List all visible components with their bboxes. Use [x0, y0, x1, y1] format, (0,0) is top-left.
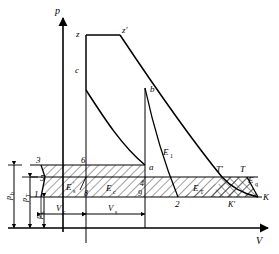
area-label-ET-base: E [192, 183, 199, 193]
dim-label-Vs: V s [108, 203, 117, 215]
point-label-4: 4 [140, 179, 144, 188]
dim-label-Vs-sub: s [115, 209, 117, 215]
point-label-2: 2 [175, 199, 180, 209]
dim-label-Vs-base: V [108, 203, 115, 213]
axis-label-V: V [256, 235, 264, 246]
area-label-Ec-base: E [105, 183, 112, 193]
point-label-c: c [75, 65, 79, 75]
dim-label-pT: p T [20, 193, 31, 203]
dim-label-pk-sub: k [39, 211, 45, 214]
area-label-Eq-sub: q [255, 181, 258, 187]
area-label-Eq-base: E [247, 175, 254, 185]
point-label-z-prime: z′ [121, 25, 129, 35]
point-label-T-prime: T′ [216, 164, 224, 174]
point-label-1: 1 [34, 189, 39, 199]
curve-compression [86, 90, 145, 165]
area-label-Es-base: E [65, 182, 72, 192]
point-label-3: 3 [35, 155, 41, 165]
pv-diagram-svg: p V z z′ c b a T′ T K K′ 1 2 3 4 5 6 8 9… [0, 0, 279, 254]
dim-label-pb-sub: b [9, 192, 15, 195]
point-label-6: 6 [81, 155, 86, 165]
area-label-ET-sub: T [200, 189, 204, 195]
point-label-5: 5 [40, 173, 45, 183]
point-label-8: 8 [84, 189, 88, 198]
axis-label-p: p [54, 5, 60, 16]
dim-label-pb-base: p [4, 196, 13, 201]
dim-label-pT-base: p [20, 198, 29, 203]
area-fill-top-strip [41, 165, 145, 177]
point-label-K-prime: K′ [227, 200, 235, 209]
area-label-Ec-sub: c [113, 189, 116, 195]
area-label-E1-base: E [162, 147, 169, 157]
point-label-K: K [262, 192, 270, 202]
point-label-b: b [150, 84, 155, 94]
dim-label-pk: p k [34, 211, 45, 220]
dim-label-Vc: V c [56, 203, 66, 215]
figure-canvas: p V z z′ c b a T′ T K K′ 1 2 3 4 5 6 8 9… [0, 0, 279, 254]
point-label-a: a [149, 162, 154, 172]
area-label-E1-sub: 1 [170, 153, 173, 159]
point-label-z: z [75, 29, 80, 39]
dim-label-pk-base: p [34, 215, 43, 220]
point-label-T: T [240, 164, 246, 174]
dim-label-pb: p b [4, 192, 15, 201]
dim-label-Vc-base: V [56, 203, 63, 213]
point-label-9: 9 [138, 189, 142, 198]
